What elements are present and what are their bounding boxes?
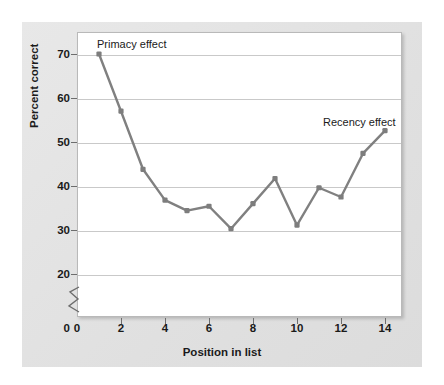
ytick-mark-50 [71,142,77,143]
ytick-label-60: 60 [40,92,70,104]
xtick-mark-10 [297,318,298,324]
annotation-primacy-effect: Primacy effect [97,38,167,50]
gridline-20 [78,275,401,276]
xtick-mark-14 [385,318,386,324]
xtick-mark-6 [209,318,210,324]
ytick-label-50: 50 [40,136,70,148]
ytick-mark-40 [71,186,77,187]
ytick-mark-30 [71,230,77,231]
gridline-50 [78,143,401,144]
gridline-60 [78,99,401,100]
ytick-mark-70 [71,54,77,55]
xtick-mark-8 [253,318,254,324]
xtick-label-0: 0 [65,322,89,334]
plot-area [77,32,402,317]
xtick-mark-2 [121,318,122,324]
ytick-label-70: 70 [40,48,70,60]
chart-figure: 70 60 50 40 30 20 0 0 2 4 6 8 10 12 14 P… [0,0,444,385]
annotation-recency-effect: Recency effect [323,116,396,128]
ytick-mark-60 [71,98,77,99]
ytick-label-20: 20 [40,268,70,280]
y-axis-title: Percent correct [28,44,40,128]
gridline-70 [78,55,401,56]
ytick-label-30: 30 [40,224,70,236]
xtick-mark-12 [341,318,342,324]
ytick-label-40: 40 [40,180,70,192]
xtick-mark-4 [165,318,166,324]
x-axis-title: Position in list [0,346,444,358]
ytick-mark-20 [71,274,77,275]
gridline-40 [78,187,401,188]
y-axis-break-icon [66,286,80,314]
gridline-30 [78,231,401,232]
